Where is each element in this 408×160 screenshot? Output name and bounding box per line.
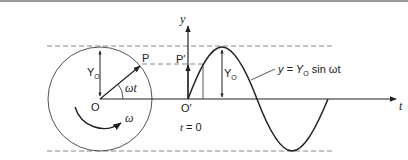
time-zero-label: t = 0 [180,121,202,133]
circle-amplitude-label: YO [87,66,100,80]
angle-label: ωt [125,81,137,95]
point-p-prime-label: P′ [176,53,185,65]
angular-velocity-label: ω [125,111,133,125]
t-axis-label: t [399,99,403,113]
origin-label: O [91,101,100,113]
origin-prime-label: O′ [181,102,192,114]
equation-leader [251,69,275,80]
angle-arc [118,84,123,99]
phasor-diagram: YO O P ωt ω y P′ O′ YO t = 0 t y = YO si… [0,0,408,160]
wave-amplitude-label: YO [224,67,237,81]
equation-label: y = YO sin ωt [277,63,340,77]
y-axis-label: y [179,12,186,26]
point-p-label: P [142,52,149,64]
